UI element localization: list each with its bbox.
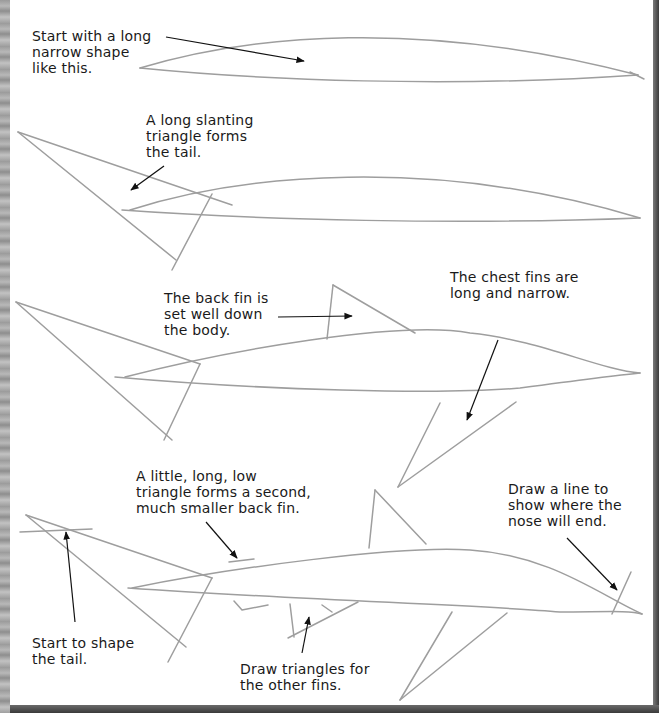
- step-3-shark-outline: [16, 285, 640, 487]
- caption-other-fins: Draw triangles for the other fins.: [240, 661, 370, 693]
- step-2-shark-outline: [18, 132, 640, 270]
- arrow-second-back-fin: [206, 522, 237, 558]
- shark-drawing-steps: [0, 0, 659, 713]
- caption-shape-tail: Start to shape the tail.: [32, 635, 134, 667]
- arrow-shape-tail: [66, 532, 75, 622]
- caption-body-shape: Start with a long narrow shape like this…: [32, 28, 151, 76]
- caption-back-fin: The back fin is set well down the body.: [164, 290, 269, 338]
- arrow-nose-line: [567, 538, 617, 590]
- bottom-page-border: [10, 705, 659, 713]
- arrow-chest-fins: [467, 340, 498, 420]
- caption-second-back-fin: A little, long, low triangle forms a sec…: [136, 468, 311, 516]
- caption-nose-line: Draw a line to show where the nose will …: [508, 481, 622, 529]
- arrow-tail-triangle: [131, 166, 164, 190]
- arrow-other-fins: [302, 617, 309, 653]
- caption-chest-fins: The chest fins are long and narrow.: [450, 269, 579, 301]
- right-page-border: [653, 0, 659, 713]
- step-1-body-outline: [140, 38, 644, 82]
- caption-tail-triangle: A long slanting triangle forms the tail.: [146, 112, 253, 160]
- arrow-back-fin: [278, 316, 352, 317]
